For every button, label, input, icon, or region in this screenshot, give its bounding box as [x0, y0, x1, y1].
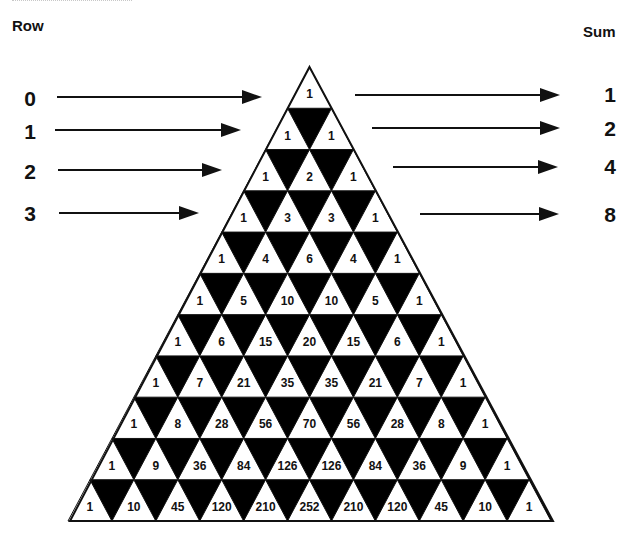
cell-value: 1	[504, 459, 511, 473]
cell-value: 1	[262, 170, 269, 184]
cell-value: 1	[306, 87, 313, 101]
cell-value: 21	[369, 376, 383, 390]
arrowhead-icon	[540, 121, 560, 135]
cell-value: 45	[435, 500, 449, 514]
cell-value: 1	[416, 294, 423, 308]
arrowhead-icon	[539, 207, 559, 221]
cell-value: 8	[438, 417, 445, 431]
cell-value: 15	[259, 335, 273, 349]
cell-value: 8	[174, 417, 181, 431]
pascal-triangle-diagram: 0123 1248 111121133114641151010511615201…	[0, 0, 639, 540]
cell-value: 56	[347, 417, 361, 431]
cell-value: 10	[127, 500, 141, 514]
cell-value: 6	[306, 252, 313, 266]
row-sum-label: 8	[604, 203, 616, 226]
cell-value: 1	[350, 170, 357, 184]
cell-value: 126	[321, 459, 341, 473]
cell-value: 1	[394, 252, 401, 266]
cell-value: 20	[303, 335, 317, 349]
row-arrows: 0123	[24, 87, 262, 225]
cell-value: 56	[259, 417, 273, 431]
cell-value: 28	[215, 417, 229, 431]
cell-value: 210	[343, 500, 363, 514]
cell-value: 1	[109, 459, 116, 473]
cell-value: 84	[237, 459, 251, 473]
cell-value: 5	[372, 294, 379, 308]
cell-value: 10	[281, 294, 295, 308]
cell-value: 1	[460, 376, 467, 390]
row-number-label: 3	[24, 202, 36, 225]
cell-value: 1	[152, 376, 159, 390]
arrowhead-icon	[221, 123, 241, 137]
arrowhead-icon	[242, 90, 262, 104]
cell-value: 4	[262, 252, 269, 266]
cell-value: 7	[416, 376, 423, 390]
cell-value: 6	[218, 335, 225, 349]
cell-value: 9	[460, 459, 467, 473]
cell-value: 10	[325, 294, 339, 308]
row-sum-label: 4	[604, 155, 616, 178]
cell-value: 1	[240, 211, 247, 225]
row-number-label: 1	[24, 120, 36, 143]
cell-value: 1	[438, 335, 445, 349]
cell-value: 1	[526, 500, 533, 514]
cell-value: 45	[171, 500, 185, 514]
pascal-triangle: 1111211331146411510105116152015611721353…	[68, 67, 553, 521]
cell-value: 1	[174, 335, 181, 349]
cell-value: 252	[299, 500, 319, 514]
cell-value: 35	[325, 376, 339, 390]
triangle-background	[70, 67, 553, 521]
cell-value: 5	[240, 294, 247, 308]
cell-value: 10	[478, 500, 492, 514]
cell-value: 126	[278, 459, 298, 473]
cell-value: 36	[413, 459, 427, 473]
cell-value: 1	[372, 211, 379, 225]
cell-value: 1	[328, 129, 335, 143]
cell-value: 9	[152, 459, 159, 473]
cell-value: 210	[256, 500, 276, 514]
cell-value: 120	[212, 500, 232, 514]
sum-arrows: 1248	[355, 83, 616, 226]
cell-value: 36	[193, 459, 207, 473]
cell-value: 1	[131, 417, 138, 431]
row-sum-label: 1	[604, 83, 616, 106]
cell-value: 3	[328, 211, 335, 225]
cell-value: 120	[387, 500, 407, 514]
arrowhead-icon	[540, 88, 560, 102]
cell-value: 1	[87, 500, 94, 514]
cell-value: 6	[394, 335, 401, 349]
row-sum-label: 2	[604, 117, 616, 140]
cell-value: 21	[237, 376, 251, 390]
cell-value: 7	[196, 376, 203, 390]
arrowhead-icon	[538, 160, 558, 174]
row-number-label: 0	[24, 87, 36, 110]
cell-value: 1	[196, 294, 203, 308]
cell-value: 3	[284, 211, 291, 225]
cell-value: 28	[391, 417, 405, 431]
cell-value: 1	[482, 417, 489, 431]
triangle-cell: 1	[288, 67, 332, 108]
arrowhead-icon	[179, 206, 199, 220]
cell-value: 70	[303, 417, 317, 431]
cell-value: 2	[306, 170, 313, 184]
cell-value: 4	[350, 252, 357, 266]
cell-value: 35	[281, 376, 295, 390]
cell-value: 1	[284, 129, 291, 143]
arrowhead-icon	[202, 163, 222, 177]
cell-value: 15	[347, 335, 361, 349]
row-number-label: 2	[24, 160, 36, 183]
cell-value: 84	[369, 459, 383, 473]
cell-value: 1	[218, 252, 225, 266]
